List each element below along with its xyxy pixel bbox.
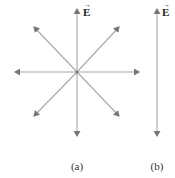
panel-label-a: (a) bbox=[71, 160, 83, 172]
panel-label-b: (b) bbox=[151, 160, 164, 172]
field-label-a: → E bbox=[83, 6, 90, 18]
polarization-diagram bbox=[0, 0, 175, 178]
arrow-down-right bbox=[77, 72, 119, 116]
arrow-down-left bbox=[34, 72, 77, 116]
arrow-up-right bbox=[77, 27, 119, 72]
field-label-b: → E bbox=[162, 6, 169, 18]
arrow-up-left bbox=[34, 27, 77, 72]
center-point bbox=[76, 71, 79, 74]
vector-arrow-icon: → bbox=[163, 1, 170, 9]
vector-arrow-icon: → bbox=[84, 1, 91, 9]
